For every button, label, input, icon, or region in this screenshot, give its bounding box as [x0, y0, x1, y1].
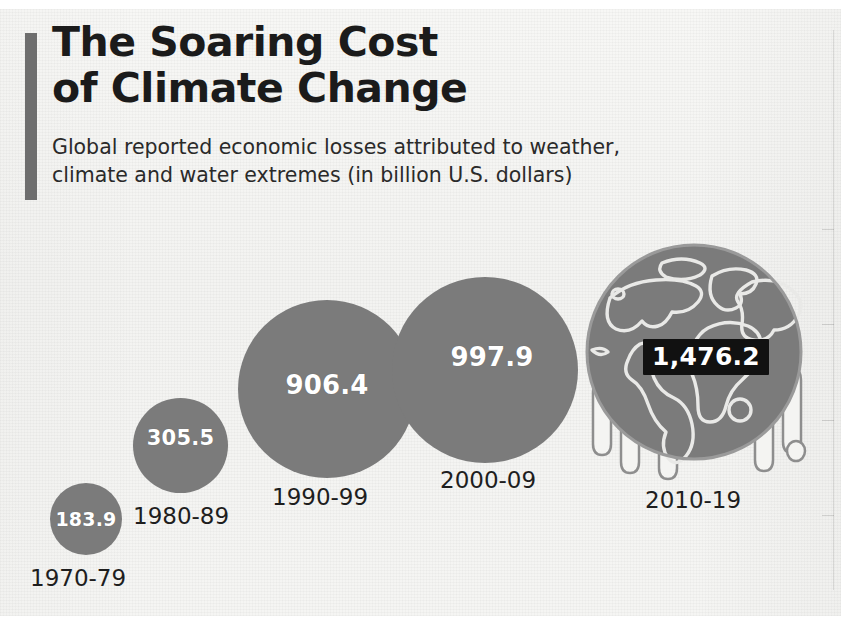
page-title: The Soaring Cost of Climate Change [52, 20, 672, 112]
period-label-2000-09: 2000-09 [440, 467, 536, 493]
period-label-1980-89: 1980-89 [133, 503, 229, 529]
bubble-1970-79: 183.9 [50, 483, 122, 555]
bubble-value-1980-89: 305.5 [147, 426, 214, 450]
page-edge-rule [833, 30, 834, 590]
period-label-1970-79: 1970-79 [30, 565, 126, 591]
title-accent-bar [25, 33, 37, 200]
bubble-value-1970-79: 183.9 [55, 508, 116, 530]
page-edge-tick [822, 515, 834, 516]
bubble-value-box-2010-19: 1,476.2 [643, 339, 769, 375]
bubble-1990-99: 906.4 [238, 300, 416, 478]
bubble-2010-19-globe: 1,476.2 [566, 232, 824, 482]
period-label-2010-19: 2010-19 [645, 487, 741, 513]
bubble-value-2000-09: 997.9 [450, 342, 533, 372]
bubble-1980-89: 305.5 [133, 398, 228, 493]
bubble-value-1990-99: 906.4 [285, 370, 368, 400]
page-subtitle: Global reported economic losses attribut… [52, 134, 752, 189]
page-edge-tick [822, 229, 834, 230]
period-label-1990-99: 1990-99 [272, 484, 368, 510]
bubble-value-2010-19: 1,476.2 [652, 342, 760, 371]
bubble-2000-09: 997.9 [392, 277, 578, 463]
infographic-canvas: The Soaring Cost of Climate Change Globa… [0, 0, 841, 624]
meltwater-droplet [787, 441, 805, 461]
